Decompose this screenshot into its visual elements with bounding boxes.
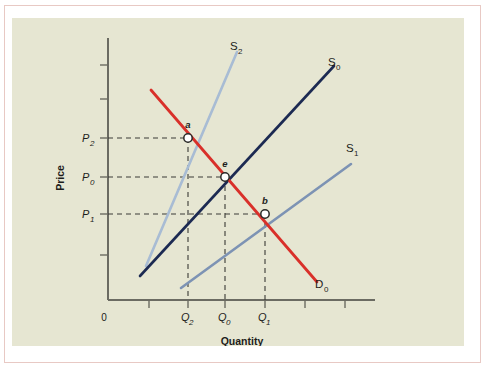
- y-tick-label-p1: P 1: [82, 208, 94, 224]
- x-tick-label-q2-sub: 2: [188, 318, 194, 327]
- y-tick-label-p2-text: P: [82, 132, 90, 144]
- x-tick-label-q0-sub: 0: [226, 318, 231, 327]
- point-marker-a: [184, 134, 192, 142]
- supply-demand-plot: a e b S 2 S 0 S 1 D 0 P 2: [12, 18, 464, 346]
- origin-label: 0: [101, 312, 107, 323]
- x-tick-label-q1-sub: 1: [266, 318, 270, 327]
- point-label-a: a: [185, 119, 190, 130]
- x-tick-label-q0: Q 0: [218, 311, 231, 327]
- y-tick-label-p0-sub: 0: [90, 178, 95, 187]
- curve-d0: [151, 90, 317, 282]
- curve-label-d0: D 0: [315, 278, 329, 294]
- curve-label-s1-sub: 1: [354, 149, 359, 158]
- x-tick-label-q1: Q 1: [258, 311, 270, 327]
- x-axis-ticks: [149, 300, 345, 308]
- curve-label-d0-sub: 0: [324, 285, 329, 294]
- y-tick-label-p2: P 2: [82, 132, 95, 148]
- curve-label-s1-text: S: [346, 142, 354, 154]
- y-axis-title: Price: [54, 165, 66, 191]
- x-axis-title: Quantity: [221, 335, 264, 346]
- curve-label-s0-text: S: [328, 56, 336, 68]
- curve-label-s0-sub: 0: [336, 63, 341, 72]
- y-tick-label-p0: P 0: [82, 171, 95, 187]
- point-label-b: b: [262, 195, 268, 206]
- y-axis-ticks: [100, 65, 108, 255]
- point-label-e: e: [222, 158, 228, 169]
- point-marker-b: [261, 210, 269, 218]
- guide-lines: [108, 138, 265, 300]
- curve-label-s1: S 1: [346, 142, 359, 158]
- point-marker-e: [221, 173, 229, 181]
- figure-page: a e b S 2 S 0 S 1 D 0 P 2: [0, 0, 486, 369]
- figure-panel: a e b S 2 S 0 S 1 D 0 P 2: [12, 18, 464, 346]
- y-tick-label-p1-sub: 1: [90, 215, 94, 224]
- curve-s0: [140, 66, 334, 276]
- y-tick-label-p2-sub: 2: [89, 139, 95, 148]
- curve-label-d0-text: D: [315, 278, 323, 290]
- curve-label-s2-text: S: [230, 40, 238, 52]
- y-tick-label-p0-text: P: [82, 171, 90, 183]
- curve-s1: [181, 164, 351, 288]
- curve-label-s2-sub: 2: [238, 47, 243, 56]
- x-tick-label-q2: Q 2: [181, 311, 194, 327]
- y-tick-label-p1-text: P: [82, 208, 90, 220]
